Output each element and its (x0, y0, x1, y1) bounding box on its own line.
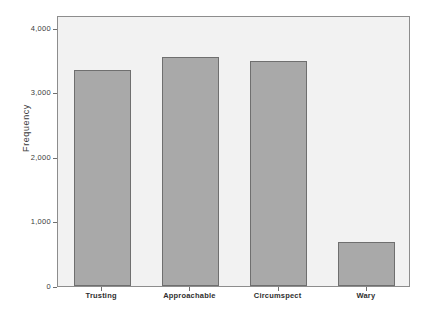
y-tick-label-0: 0 (17, 283, 51, 291)
y-tick-label-1000: 1,000 (17, 218, 51, 226)
x-tick-label-wary: Wary (306, 291, 425, 301)
bar-chart: Frequency 01,0002,0003,0004,000 Trusting… (0, 0, 425, 316)
bar-wary (338, 242, 395, 286)
y-axis: 01,0002,0003,0004,000 (13, 0, 57, 316)
plot-inner (58, 17, 409, 286)
bar-circumspect (250, 61, 307, 286)
y-tick-label-3000: 3,000 (17, 89, 51, 97)
y-tick-mark-0 (53, 287, 57, 288)
bar-approachable (162, 57, 219, 286)
plot-area (57, 16, 410, 287)
bar-trusting (74, 70, 131, 286)
y-tick-label-2000: 2,000 (17, 154, 51, 162)
y-tick-label-4000: 4,000 (17, 25, 51, 33)
